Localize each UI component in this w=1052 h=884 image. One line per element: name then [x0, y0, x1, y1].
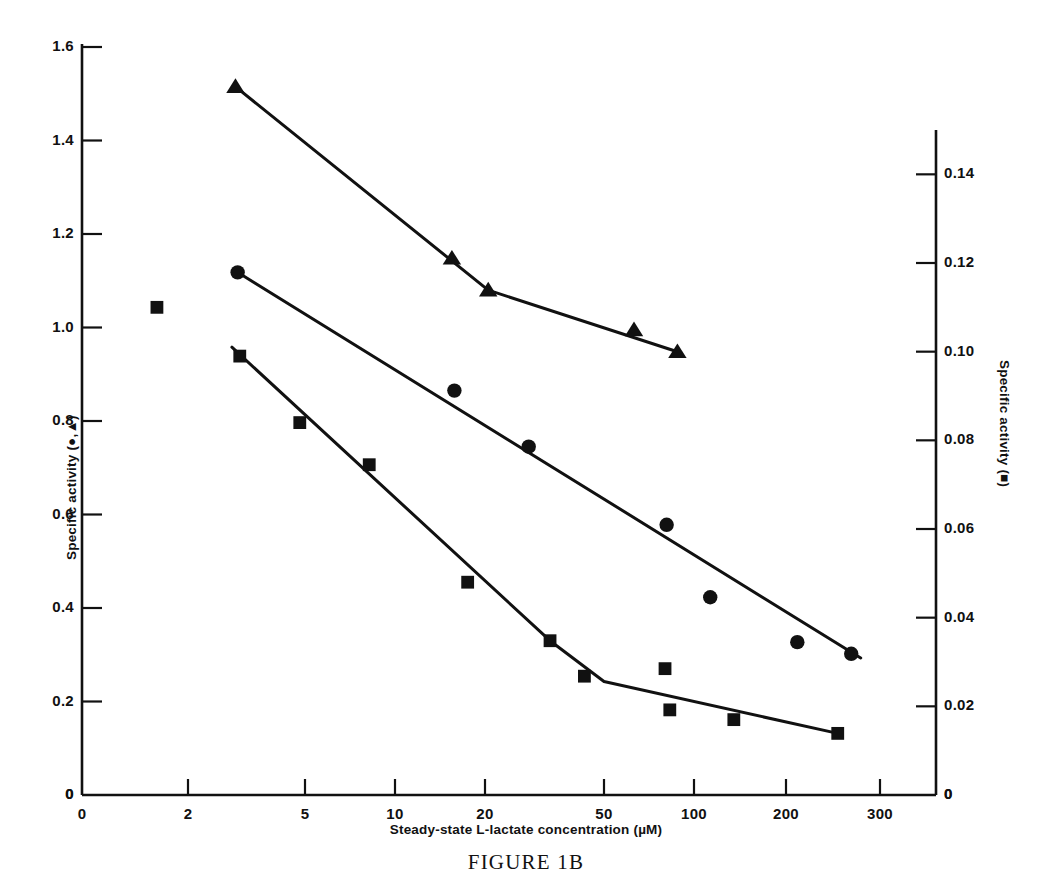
data-point-circle — [521, 440, 535, 454]
data-point-square — [663, 703, 676, 716]
circle-series-line — [238, 272, 861, 658]
data-point-square — [659, 662, 672, 675]
y-tick-label-right: 0.04 — [944, 608, 1004, 625]
data-point-square — [151, 301, 164, 314]
data-point-triangle — [226, 78, 244, 93]
data-point-square — [293, 416, 306, 429]
y-zero-label-left: 0 — [20, 785, 74, 802]
data-point-square — [578, 670, 591, 683]
chart-canvas — [0, 0, 1052, 884]
y-tick-label-left: 1.2 — [20, 224, 74, 241]
y-tick-label-right: 0.08 — [944, 430, 1004, 447]
x-tick-label: 0 — [52, 805, 112, 822]
square-series-line — [232, 347, 838, 733]
data-point-circle — [703, 590, 717, 604]
x-tick-label: 300 — [850, 805, 910, 822]
data-point-circle — [790, 635, 804, 649]
y-tick-label-right: 0.02 — [944, 696, 1004, 713]
x-tick-label: 50 — [574, 805, 634, 822]
data-point-circle — [230, 265, 244, 279]
y-tick-label-right: 0.12 — [944, 253, 1004, 270]
data-point-square — [233, 350, 246, 363]
data-point-circle — [659, 518, 673, 532]
y-tick-label-left: 1.6 — [20, 37, 74, 54]
data-point-square — [831, 727, 844, 740]
y-tick-label-right: 0.14 — [944, 164, 1004, 181]
x-tick-label: 100 — [664, 805, 724, 822]
y-tick-label-left: 0.2 — [20, 692, 74, 709]
figure-1b-container: 00.20.40.60.81.01.21.41.600.020.040.060.… — [0, 0, 1052, 884]
data-point-circle — [844, 647, 858, 661]
y-axis-left-title: Specific activity (●,▲) — [64, 415, 79, 560]
figure-caption: FIGURE 1B — [0, 850, 1052, 875]
x-tick-label: 10 — [365, 805, 425, 822]
x-tick-label: 20 — [455, 805, 515, 822]
y-axis-right-title: Specific activity (■) — [997, 360, 1012, 487]
data-point-square — [363, 458, 376, 471]
data-point-square — [544, 634, 557, 647]
data-point-square — [461, 576, 474, 589]
y-tick-label-right: 0.10 — [944, 342, 1004, 359]
y-zero-label-right: 0 — [944, 785, 1004, 802]
data-point-circle — [447, 383, 461, 397]
x-tick-label: 200 — [756, 805, 816, 822]
y-tick-label-left: 1.4 — [20, 131, 74, 148]
y-tick-label-left: 1.0 — [20, 318, 74, 335]
data-point-triangle — [625, 321, 643, 336]
x-tick-label: 5 — [275, 805, 335, 822]
y-tick-label-right: 0.06 — [944, 519, 1004, 536]
y-tick-label-left: 0.4 — [20, 598, 74, 615]
data-point-square — [727, 713, 740, 726]
x-tick-label: 2 — [158, 805, 218, 822]
x-axis-title: Steady-state L-lactate concentration (µM… — [0, 822, 1052, 837]
